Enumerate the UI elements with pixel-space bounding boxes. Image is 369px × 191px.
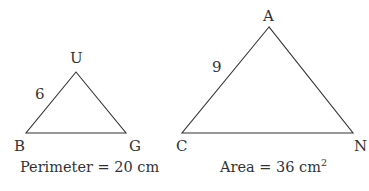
triangle-can: A C N 9 Area = 36 cm2 — [176, 7, 367, 175]
vertex-label-n: N — [354, 137, 367, 155]
vertex-label-u: U — [70, 49, 83, 67]
side-label-bu: 6 — [35, 85, 45, 103]
area-caption-superscript: 2 — [321, 157, 327, 168]
perimeter-caption: Perimeter = 20 cm — [20, 159, 159, 175]
vertex-label-a: A — [262, 7, 274, 25]
vertex-label-b: B — [14, 137, 25, 155]
triangle-can-shape — [182, 27, 353, 133]
triangle-bug: U B G 6 Perimeter = 20 cm — [14, 49, 159, 175]
area-caption: Area = 36 cm2 — [219, 157, 327, 175]
vertex-label-g: G — [129, 137, 141, 155]
vertex-label-c: C — [176, 137, 187, 155]
area-caption-main: Area = 36 cm — [219, 159, 321, 175]
similar-triangles-diagram: U B G 6 Perimeter = 20 cm A C N 9 Area =… — [0, 0, 369, 191]
side-label-ca: 9 — [212, 58, 222, 76]
